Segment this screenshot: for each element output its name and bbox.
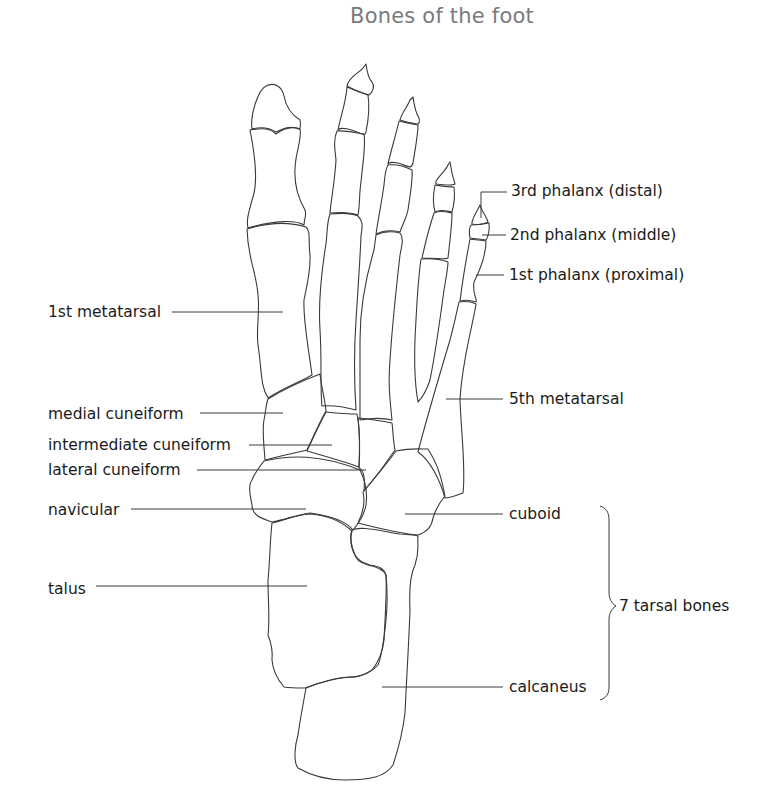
third-toe-bones — [360, 97, 419, 420]
label-medial-cuneiform: medial cuneiform — [48, 405, 184, 423]
label-talus: talus — [48, 580, 86, 598]
second-toe-bones — [319, 64, 373, 410]
label-lateral-cuneiform: lateral cuneiform — [48, 461, 181, 479]
hallux-bones — [247, 84, 312, 398]
label-intermediate-cuneiform: intermediate cuneiform — [48, 436, 231, 454]
label-navicular: navicular — [48, 501, 119, 519]
fourth-toe-bones — [415, 162, 455, 402]
label-distal-phalanx: 3rd phalanx (distal) — [511, 182, 663, 200]
tarsal-brace — [600, 506, 616, 700]
label-first-metatarsal: 1st metatarsal — [48, 303, 161, 321]
cuneiform-bones — [263, 374, 395, 491]
foot-bones-diagram: Bones of the foot — [0, 0, 776, 811]
talus-bone — [268, 514, 386, 688]
label-middle-phalanx: 2nd phalanx (middle) — [510, 226, 676, 244]
label-proximal-phalanx: 1st phalanx (proximal) — [509, 266, 684, 284]
label-tarsal-group: 7 tarsal bones — [619, 597, 729, 615]
cuboid-bone — [358, 449, 445, 535]
label-fifth-metatarsal: 5th metatarsal — [509, 390, 624, 408]
navicular-bone — [250, 457, 367, 530]
label-calcaneus: calcaneus — [509, 678, 587, 696]
fifth-toe-bones — [418, 205, 489, 498]
label-cuboid: cuboid — [509, 505, 561, 523]
calcaneus-bone — [295, 528, 418, 780]
